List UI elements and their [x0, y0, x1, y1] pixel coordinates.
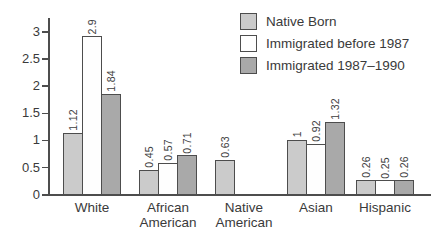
bar-value-label-hispanic-native-born: 0.26 — [360, 156, 372, 178]
bar-value-label-asian-immigrated-1987-1990: 1.32 — [329, 98, 341, 120]
bar-value-label-white-native-born: 1.12 — [67, 109, 79, 131]
y-tick-label: 0 — [10, 187, 40, 203]
x-category-label-hispanic: Hispanic — [340, 200, 430, 215]
bar-white-native-born — [63, 133, 83, 195]
bar-value-label-hispanic-immigrated-1987-1990: 0.26 — [398, 156, 410, 178]
y-tick — [42, 194, 49, 196]
bar-value-label-hispanic-immigrated-before-1987: 0.25 — [379, 157, 391, 179]
bar-value-label-white-immigrated-before-1987: 2.9 — [86, 19, 98, 35]
legend-label-immigrated-1987-1990: Immigrated 1987–1990 — [266, 57, 405, 74]
legend-item-immigrated-1987-1990: Immigrated 1987–1990 — [240, 57, 409, 74]
y-tick — [42, 85, 49, 87]
bar-asian-native-born — [287, 140, 307, 196]
legend-swatch-immigrated-1987-1990 — [240, 57, 257, 74]
bar-hispanic-immigrated-1987-1990 — [394, 180, 414, 196]
bar-hispanic-native-born — [356, 180, 376, 196]
y-tick — [42, 58, 49, 60]
bar-value-label-white-immigrated-1987-1990: 1.84 — [105, 70, 117, 92]
bar-value-label-asian-immigrated-before-1987: 0.92 — [310, 120, 322, 142]
legend-swatch-native-born — [240, 13, 257, 30]
legend-swatch-immigrated-before-1987 — [240, 35, 257, 52]
bar-hispanic-immigrated-before-1987 — [375, 180, 395, 195]
y-tick — [42, 113, 49, 115]
y-tick-label: 2.5 — [10, 51, 40, 67]
y-axis — [48, 18, 50, 196]
bar-value-label-african-american-immigrated-1987-1990: 0.71 — [181, 132, 193, 154]
bar-chart: 00.511.522.531.120.450.6310.262.90.570.9… — [0, 0, 438, 233]
y-tick — [42, 31, 49, 33]
bar-white-immigrated-before-1987 — [82, 36, 102, 195]
bar-native-american-native-born — [215, 160, 235, 196]
y-tick — [42, 140, 49, 142]
y-tick — [42, 167, 49, 169]
y-tick-label: 2 — [10, 78, 40, 94]
y-tick-label: 0.5 — [10, 160, 40, 176]
bar-asian-immigrated-1987-1990 — [325, 122, 345, 195]
bar-african-american-immigrated-1987-1990 — [177, 155, 197, 195]
legend-label-immigrated-before-1987: Immigrated before 1987 — [266, 35, 409, 52]
y-tick-label: 1.5 — [10, 105, 40, 121]
legend-item-native-born: Native Born — [240, 13, 409, 30]
bar-african-american-immigrated-before-1987 — [158, 163, 178, 195]
legend-label-native-born: Native Born — [266, 13, 337, 30]
bar-value-label-african-american-native-born: 0.45 — [143, 146, 155, 168]
bar-value-label-native-american-native-born: 0.63 — [219, 136, 231, 158]
y-tick-label: 1 — [10, 132, 40, 148]
bar-value-label-asian-native-born: 1 — [291, 131, 303, 137]
bar-asian-immigrated-before-1987 — [306, 144, 326, 195]
legend: Native Born Immigrated before 1987 Immig… — [240, 13, 409, 79]
y-tick-label: 3 — [10, 24, 40, 40]
bar-white-immigrated-1987-1990 — [101, 94, 121, 195]
legend-item-immigrated-before-1987: Immigrated before 1987 — [240, 35, 409, 52]
bar-african-american-native-born — [139, 170, 159, 196]
bar-value-label-african-american-immigrated-before-1987: 0.57 — [162, 139, 174, 161]
